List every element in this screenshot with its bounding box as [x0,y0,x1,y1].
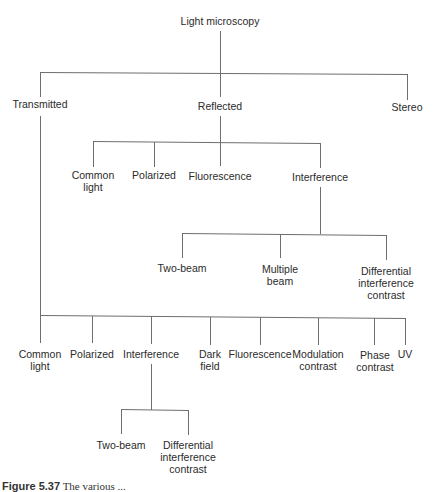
node-label-line: contrast [358,289,413,301]
node-label: Polarized [70,348,114,360]
node-label: Polarized [132,169,176,181]
figure-number: Figure 5.37 [2,480,60,492]
node-label: UV [398,348,413,360]
node-light-microscopy: Light microscopy [181,15,260,27]
node-transmitted-fluorescence: Fluorescence [228,348,291,360]
node-transmitted-interference: Interference [123,348,179,360]
node-label-line: light [72,181,115,193]
node-transmitted: Transmitted [12,98,67,110]
node-reflected-dic: Differential interference contrast [358,265,413,301]
node-label: Transmitted [12,98,67,110]
node-label-line: Modulation [292,348,343,360]
node-label: Two-beam [157,262,206,274]
node-label: Fluorescence [188,170,251,182]
node-label-line: Common [19,348,62,360]
node-label-line: interference [358,277,413,289]
node-reflected-interference: Interference [292,171,348,183]
node-transmitted-dic: Differential interference contrast [160,439,215,475]
node-label-line: contrast [356,361,393,373]
node-label-line: Common [72,169,115,181]
figure-caption: Figure 5.37 The various ... [2,480,126,492]
node-label: Interference [292,171,348,183]
node-transmitted-modulation-contrast: Modulation contrast [292,348,343,372]
node-reflected-two-beam: Two-beam [157,262,206,274]
node-reflected-polarized: Polarized [132,169,176,181]
node-label-line: Phase [356,349,393,361]
node-label-line: Dark [199,348,221,360]
node-transmitted-dark-field: Dark field [199,348,221,372]
caption-text: The various ... [63,480,126,492]
node-transmitted-polarized: Polarized [70,348,114,360]
node-transmitted-common-light: Common light [19,348,62,372]
node-label-line: light [19,360,62,372]
node-label-line: beam [262,275,298,287]
node-transmitted-phase-contrast: Phase contrast [356,349,393,373]
node-label: Light microscopy [181,15,260,27]
node-reflected-common-light: Common light [72,169,115,193]
node-label: Reflected [198,100,242,112]
node-label-line: interference [160,451,215,463]
node-label: Fluorescence [228,348,291,360]
node-label-line: contrast [160,463,215,475]
node-label-line: field [199,360,221,372]
node-label-line: Differential [160,439,215,451]
node-stereo: Stereo [392,101,423,113]
node-reflected-multiple-beam: Multiple beam [262,263,298,287]
node-label: Two-beam [96,439,145,451]
node-label-line: Differential [358,265,413,277]
node-reflected: Reflected [198,100,242,112]
node-label: Stereo [392,101,423,113]
node-transmitted-two-beam: Two-beam [96,439,145,451]
node-label-line: Multiple [262,263,298,275]
node-label: Interference [123,348,179,360]
node-label-line: contrast [292,360,343,372]
node-reflected-fluorescence: Fluorescence [188,170,251,182]
node-transmitted-uv: UV [398,348,413,360]
